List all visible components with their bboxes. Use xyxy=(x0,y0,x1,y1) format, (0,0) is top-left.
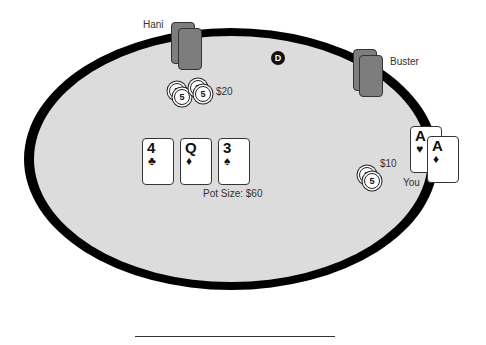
pot-size: Pot Size: $60 xyxy=(203,188,262,199)
dealer-button: D xyxy=(271,51,285,65)
card-rank: A xyxy=(415,128,426,143)
diamond-icon: ♦ xyxy=(186,155,192,167)
buster-card-back-2 xyxy=(359,55,383,97)
spade-icon: ♠ xyxy=(224,155,230,167)
your-bet: $10 xyxy=(380,158,397,169)
card-rank: 4 xyxy=(147,140,155,155)
player-name-buster: Buster xyxy=(390,56,419,67)
heart-icon: ♥ xyxy=(416,143,423,155)
your-card-2: A♦ xyxy=(427,136,459,183)
chip: 5 xyxy=(364,173,380,189)
card-rank: A xyxy=(432,138,443,153)
board-card-3: 3♠ xyxy=(218,138,250,185)
board-card-1: 4♣ xyxy=(142,138,174,185)
hani-card-back-2 xyxy=(178,28,202,70)
divider-line xyxy=(135,336,335,337)
chip: 5 xyxy=(195,86,211,102)
chip: 5 xyxy=(174,89,190,105)
card-rank: Q xyxy=(185,140,197,155)
player-name-you: You xyxy=(403,177,420,188)
card-rank: 3 xyxy=(223,140,231,155)
player-name-hani: Hani xyxy=(143,19,164,30)
hani-bet: $20 xyxy=(216,86,233,97)
club-icon: ♣ xyxy=(148,155,156,167)
board-card-2: Q♦ xyxy=(180,138,212,185)
diamond-icon: ♦ xyxy=(433,153,439,165)
